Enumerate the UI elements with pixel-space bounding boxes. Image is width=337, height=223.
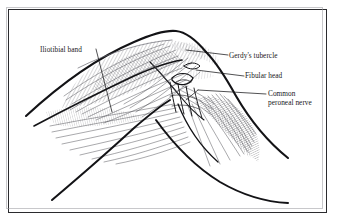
label-common-peroneal-nerve-line1: Common <box>268 89 295 98</box>
label-iliotibial-band: Iliotibial band <box>40 45 82 54</box>
label-common-peroneal-nerve: Common peroneal nerve <box>268 89 334 108</box>
label-fibular-head: Fibular head <box>245 71 282 80</box>
label-gerdys-tubercle: Gerdy's tubercle <box>229 51 278 60</box>
label-common-peroneal-nerve-line2: peroneal nerve <box>268 98 312 107</box>
figure-page: Iliotibial band Gerdy's tubercle Fibular… <box>0 0 337 223</box>
knee-anatomy-illustration <box>0 0 337 223</box>
